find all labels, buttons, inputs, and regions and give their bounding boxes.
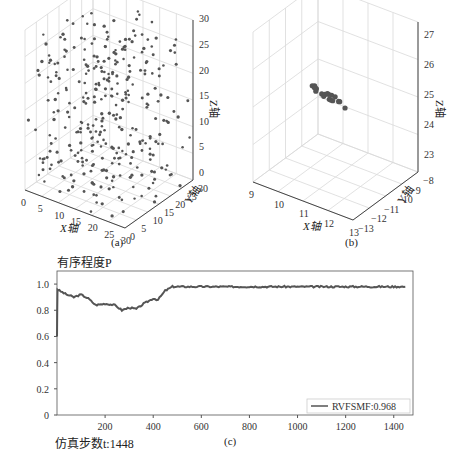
svg-text:12: 12 (324, 218, 334, 229)
svg-text:−13: −13 (358, 223, 374, 234)
svg-text:RVFSMF:0.968: RVFSMF:0.968 (332, 401, 396, 412)
svg-text:5: 5 (38, 203, 43, 214)
svg-text:30: 30 (199, 13, 209, 24)
svg-text:X轴: X轴 (302, 220, 322, 232)
svg-text:1.0: 1.0 (37, 279, 50, 290)
panel-a-label: (a) (111, 236, 123, 248)
svg-text:0.8: 0.8 (37, 305, 50, 316)
svg-text:0: 0 (21, 197, 26, 208)
svg-text:400: 400 (146, 421, 161, 432)
svg-text:10: 10 (153, 215, 163, 226)
svg-text:20: 20 (88, 222, 98, 233)
svg-text:Z轴: Z轴 (434, 100, 447, 118)
panel-a-3d-scatter: 051015202530051015202530051015202530X轴Y轴… (21, 0, 221, 246)
svg-text:1200: 1200 (336, 421, 356, 432)
svg-text:1000: 1000 (288, 421, 308, 432)
svg-text:1400: 1400 (384, 421, 404, 432)
svg-text:−11: −11 (384, 204, 399, 215)
y-axis-title: 有序程度P (57, 253, 112, 271)
panel-b-label: (b) (345, 236, 358, 248)
panel-c-line-chart: 00.20.40.60.81.0200400600800100012001400… (37, 271, 414, 432)
svg-text:0.6: 0.6 (37, 331, 50, 342)
svg-text:0.4: 0.4 (37, 358, 50, 369)
svg-text:800: 800 (242, 421, 257, 432)
svg-text:200: 200 (98, 421, 113, 432)
svg-text:20: 20 (199, 65, 209, 76)
svg-text:15: 15 (164, 207, 174, 218)
svg-text:X轴: X轴 (59, 222, 79, 234)
svg-text:10: 10 (54, 210, 64, 221)
svg-text:24: 24 (424, 119, 434, 130)
svg-text:15: 15 (199, 90, 209, 101)
svg-text:Z轴: Z轴 (208, 100, 221, 118)
svg-text:−12: −12 (371, 213, 387, 224)
svg-text:−8: −8 (423, 175, 434, 186)
svg-text:10: 10 (274, 199, 284, 210)
svg-text:25: 25 (424, 89, 434, 100)
svg-text:26: 26 (424, 59, 434, 70)
figure: 051015202530051015202530051015202530X轴Y轴… (0, 0, 457, 467)
svg-text:25: 25 (199, 39, 209, 50)
svg-text:10: 10 (199, 116, 209, 127)
svg-text:23: 23 (424, 149, 434, 160)
svg-text:0.2: 0.2 (37, 384, 50, 395)
svg-text:27: 27 (424, 29, 434, 40)
svg-text:9: 9 (249, 189, 254, 200)
svg-text:5: 5 (199, 141, 204, 152)
svg-text:11: 11 (299, 208, 309, 219)
svg-text:0: 0 (199, 167, 204, 178)
svg-text:5: 5 (141, 223, 146, 234)
x-axis-title: 仿真步数t:1448 (55, 434, 134, 452)
panel-b-3d-scatter: 910111213−13−12−11−10−9−82324252627X轴Y轴Z… (249, 0, 447, 238)
svg-text:0: 0 (130, 231, 135, 242)
panel-c-label: (c) (224, 435, 236, 447)
svg-text:600: 600 (194, 421, 209, 432)
svg-text:0: 0 (44, 410, 49, 421)
